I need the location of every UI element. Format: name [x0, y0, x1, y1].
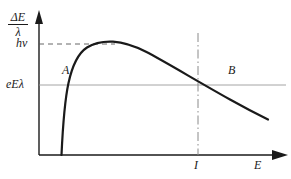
y-axis-label-numerator: ΔE: [10, 11, 26, 23]
y-axis-label: ΔE λ: [8, 11, 28, 38]
figure-container: ΔE λ hν eEλ A B I E: [0, 0, 291, 179]
y-tick-label-hv: hν: [16, 37, 27, 49]
x-axis: [39, 150, 288, 160]
annotation-label-b: B: [228, 64, 235, 76]
x-tick-label-i: I: [194, 159, 198, 171]
y-axis-arrowhead: [35, 10, 43, 24]
annotation-label-a: A: [62, 64, 69, 76]
x-axis-arrowhead: [272, 150, 288, 160]
energy-loss-curve: [62, 42, 269, 155]
y-tick-label-eEl: eEλ: [6, 78, 24, 90]
plot-canvas: [0, 0, 291, 179]
y-axis: [35, 10, 43, 155]
x-axis-label: E: [254, 159, 261, 171]
